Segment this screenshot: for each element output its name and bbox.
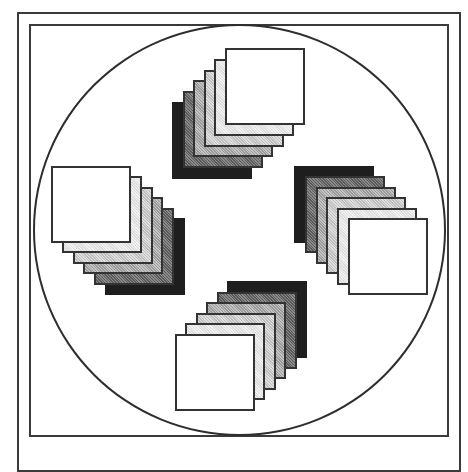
square-white <box>348 218 428 295</box>
square-white <box>51 166 131 243</box>
square-white <box>175 334 255 411</box>
square-white <box>225 48 305 125</box>
